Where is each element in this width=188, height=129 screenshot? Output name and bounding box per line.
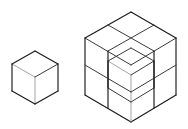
isometric-cube-diagram (0, 0, 188, 129)
